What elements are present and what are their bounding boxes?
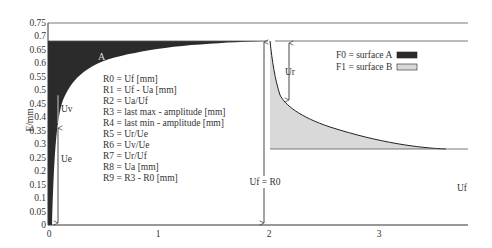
y-tick: 0.4 — [34, 112, 46, 122]
x-tick: 1 — [156, 229, 161, 239]
formula-list: R0 = Uf [mm] R1 = Uf - Ua [mm] R2 = Ua/U… — [103, 74, 226, 183]
y-tick: 0.2 — [34, 166, 46, 176]
formula-r8: R8 = Ua [mm] — [103, 162, 159, 172]
x-tick: 2 — [267, 229, 272, 239]
chart: 0 0.05 0.1 0.15 0.2 0.25 0.3 0.35 0.4 0.… — [0, 0, 492, 248]
legend-label-f0: F0 = surface A — [336, 50, 392, 60]
x-tick: 3 — [377, 229, 382, 239]
y-tick: 0.6 — [34, 58, 46, 68]
y-tick: 0.45 — [29, 99, 46, 109]
surface-a-area — [48, 41, 268, 225]
legend-label-f1: F1 = surface B — [336, 62, 392, 72]
uf-label: Uf — [457, 183, 468, 193]
y-tick: 0.65 — [29, 45, 46, 55]
legend-swatch-f0 — [397, 52, 417, 58]
y-tick: 0.55 — [29, 72, 46, 82]
formula-r6: R6 = Uv/Ue — [103, 140, 150, 150]
y-tick: 0.7 — [34, 31, 46, 41]
formula-r3: R3 = last max - amplitude [mm] — [103, 107, 226, 117]
formula-r1: R1 = Uf - Ua [mm] — [103, 85, 177, 95]
uf-r0-label: Uf = R0 — [249, 177, 280, 187]
y-tick: 0.3 — [34, 139, 46, 149]
y-tick: 0.25 — [29, 153, 46, 163]
y-tick: 0.1 — [34, 193, 46, 203]
y-tick: 0.5 — [34, 85, 46, 95]
formula-r9: R9 = R3 - R0 [mm] — [103, 173, 178, 183]
y-axis-label: E/mm — [25, 108, 35, 132]
x-tick: 0 — [47, 229, 52, 239]
y-tick: 0.15 — [29, 180, 46, 190]
y-tick: 0.05 — [29, 207, 46, 217]
formula-r0: R0 = Uf [mm] — [103, 74, 158, 84]
formula-r2: R2 = Ua/Uf — [103, 96, 149, 106]
legend-swatch-f1 — [397, 64, 417, 70]
ue-label: Ue — [61, 154, 72, 164]
y-tick: 0.75 — [29, 18, 46, 28]
x-tick-labels: 0 1 2 3 — [47, 229, 382, 239]
formula-r5: R5 = Ur/Ue — [103, 129, 148, 139]
legend: F0 = surface A F1 = surface B — [336, 50, 417, 72]
uv-label: Uv — [61, 104, 73, 114]
formula-r7: R7 = Ur/Uf — [103, 151, 148, 161]
region-a-label: A — [98, 51, 106, 62]
y-tick: 0 — [41, 220, 46, 230]
ur-label: Ur — [285, 67, 296, 77]
formula-r4: R4 = last min - amplitude [mm] — [103, 118, 224, 128]
